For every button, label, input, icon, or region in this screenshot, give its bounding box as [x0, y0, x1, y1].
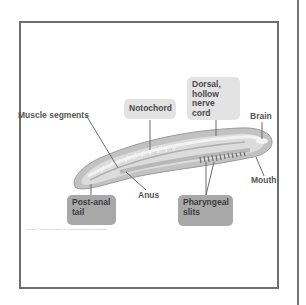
label-notochord: Notochord: [124, 99, 176, 119]
label-dorsal-nerve-cord: Dorsal, hollow nerve cord: [187, 77, 240, 120]
copyright-caption: Copyright © Pearson Education, Inc., pub…: [26, 228, 106, 231]
label-pharyngeal-slits: Pharyngeal slits: [178, 195, 233, 226]
label-tail-line2: tail: [72, 208, 111, 218]
leader-pharyngeal-slit-2: [206, 162, 214, 195]
label-muscle-segments: Muscle segments: [18, 110, 89, 120]
label-anus: Anus: [138, 190, 159, 200]
label-brain: Brain: [250, 111, 272, 121]
label-mouth: Mouth: [251, 175, 277, 185]
label-notochord-text: Notochord: [129, 103, 172, 113]
lancelet-illustration: [0, 0, 306, 305]
label-dorsal-line3: nerve cord: [192, 99, 235, 118]
label-slits-line2: slits: [183, 208, 228, 218]
label-post-anal-tail: Post-anal tail: [67, 195, 116, 225]
leader-mouth: [256, 157, 264, 176]
